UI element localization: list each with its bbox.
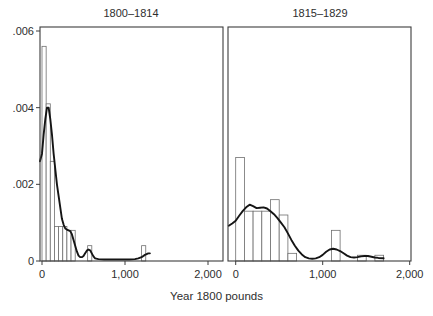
panel-title-left: 1800–1814 bbox=[103, 7, 158, 19]
histogram-bar bbox=[46, 104, 50, 261]
histogram-bar bbox=[262, 211, 271, 261]
histogram-bar bbox=[244, 211, 253, 261]
histogram-bar bbox=[54, 227, 58, 262]
y-tick-label: .002 bbox=[13, 178, 34, 190]
histogram-bar bbox=[67, 230, 71, 261]
histogram-bar bbox=[331, 230, 340, 261]
histogram-bar bbox=[271, 200, 280, 261]
histogram-bar bbox=[142, 246, 146, 261]
y-tick-label: .006 bbox=[13, 25, 34, 37]
x-axis-title: Year 1800 pounds bbox=[0, 290, 433, 302]
histogram-bar bbox=[288, 253, 297, 261]
panel-border bbox=[40, 27, 223, 261]
x-tick-label: 1,000 bbox=[111, 268, 139, 280]
histogram-bar bbox=[63, 227, 67, 262]
x-tick-label: 1,000 bbox=[309, 268, 337, 280]
chart-canvas: 01,0002,0000.002.004.00601,0002,000 bbox=[0, 0, 433, 316]
y-tick-label: .004 bbox=[13, 102, 34, 114]
histogram-bar bbox=[50, 161, 54, 261]
histogram-bar bbox=[59, 227, 63, 262]
histogram-bar bbox=[236, 158, 245, 262]
x-tick-label: 2,000 bbox=[396, 268, 424, 280]
x-tick-label: 2,000 bbox=[194, 268, 222, 280]
x-tick-label: 0 bbox=[39, 268, 45, 280]
x-tick-label: 0 bbox=[233, 268, 239, 280]
panel-title-right: 1815–1829 bbox=[292, 7, 347, 19]
y-tick-label: 0 bbox=[28, 255, 34, 267]
histogram-figure: 01,0002,0000.002.004.00601,0002,000 1800… bbox=[0, 0, 433, 316]
histogram-bar bbox=[253, 211, 262, 261]
